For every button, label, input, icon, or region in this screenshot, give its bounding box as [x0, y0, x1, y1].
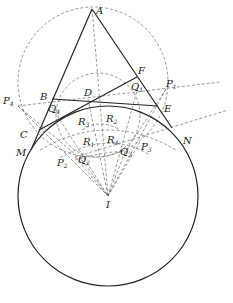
- label-N: N: [182, 135, 193, 146]
- label-C: C: [20, 129, 28, 140]
- label-A: A: [95, 5, 103, 16]
- label-P4: P4: [2, 95, 14, 107]
- label-M: M: [15, 147, 27, 158]
- label-I: I: [105, 199, 111, 210]
- line-AN: [92, 9, 172, 128]
- label-R4: R4: [106, 134, 119, 146]
- label-Q3: Q3: [120, 146, 132, 158]
- geometry-diagram: A B C D E F M N I P1 P2 P3 P4 Q1 Q2 Q3 Q…: [0, 0, 233, 303]
- label-F: F: [137, 65, 146, 76]
- label-R3: R3: [77, 116, 90, 128]
- label-R1: R1: [82, 136, 94, 148]
- label-B: B: [39, 91, 47, 102]
- circumcircle: [18, 7, 168, 157]
- label-Q4: Q4: [48, 103, 60, 115]
- label-P3: P3: [140, 141, 152, 153]
- label-P1: P1: [165, 78, 177, 90]
- label-P2: P2: [56, 157, 68, 169]
- line-Q3I: [108, 152, 125, 196]
- label-R2: R2: [105, 113, 118, 125]
- label-E: E: [163, 103, 172, 114]
- label-D: D: [83, 87, 92, 98]
